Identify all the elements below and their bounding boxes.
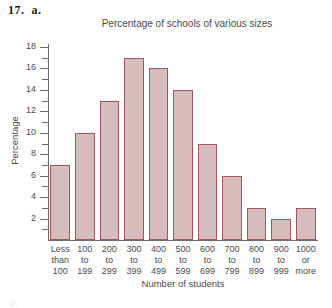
y-axis-major-tick — [40, 154, 48, 155]
x-axis-tick-label-line: or — [290, 255, 321, 266]
y-axis-major-tick — [40, 176, 48, 177]
x-axis-tick-label-line: 1000 — [290, 244, 321, 255]
y-axis-line — [48, 44, 49, 241]
x-axis-title: Number of students — [48, 278, 318, 289]
bar — [198, 144, 218, 241]
x-axis-tick-label-line: more — [290, 266, 321, 277]
y-axis-tick-label: 8 — [10, 149, 36, 158]
y-axis-minor-tick — [42, 122, 48, 123]
y-axis-minor-tick — [42, 229, 48, 230]
y-axis-tick-label: 14 — [10, 85, 36, 94]
bar — [247, 208, 267, 240]
y-axis-tick-label: 10 — [10, 128, 36, 137]
y-axis-major-tick — [40, 111, 48, 112]
y-axis-tick-label: 12 — [10, 106, 36, 115]
chart-plot-area: Percentage 24681012141618 Lessthan100100… — [0, 0, 332, 308]
y-axis-tick-label: 18 — [10, 42, 36, 51]
bar — [173, 90, 193, 240]
bar — [50, 165, 70, 240]
next-part-label: b. — [10, 296, 18, 308]
bar — [75, 133, 95, 240]
y-axis-minor-tick — [42, 79, 48, 80]
bar — [100, 101, 120, 240]
x-axis-tick-label: 1000ormore — [290, 244, 321, 277]
bar — [124, 58, 144, 240]
bar — [271, 219, 291, 240]
y-axis-major-tick — [40, 197, 48, 198]
y-axis-major-tick — [40, 219, 48, 220]
y-axis-major-tick — [40, 47, 48, 48]
bar — [296, 208, 316, 240]
y-axis-minor-tick — [42, 144, 48, 145]
y-axis-tick-label: 2 — [10, 214, 36, 223]
y-axis-minor-tick — [42, 101, 48, 102]
y-axis-major-tick — [40, 68, 48, 69]
y-axis-tick-label: 6 — [10, 171, 36, 180]
x-axis-line — [48, 240, 318, 241]
bar — [149, 68, 169, 240]
y-axis-minor-tick — [42, 186, 48, 187]
y-axis-major-tick — [40, 133, 48, 134]
y-axis-tick-label: 16 — [10, 63, 36, 72]
y-axis-major-tick — [40, 90, 48, 91]
y-axis-tick-label: 4 — [10, 192, 36, 201]
y-axis-minor-tick — [42, 208, 48, 209]
y-axis-minor-tick — [42, 165, 48, 166]
y-axis-minor-tick — [42, 58, 48, 59]
bar — [222, 176, 242, 240]
